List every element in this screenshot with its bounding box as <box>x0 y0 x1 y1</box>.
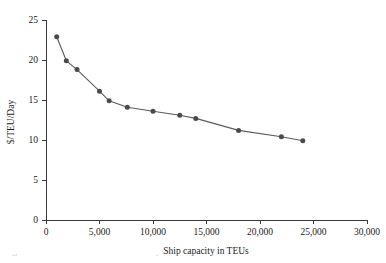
chart-figure: 05,00010,00015,00020,00025,00030,000 051… <box>0 0 386 263</box>
x-tick-label: 5,000 <box>89 227 111 237</box>
x-tick-label: 25,000 <box>300 227 326 237</box>
x-tick-label: 15,000 <box>193 227 219 237</box>
y-tick-label: 0 <box>33 215 38 225</box>
axis-spine <box>46 20 367 220</box>
x-tick-label: 10,000 <box>140 227 166 237</box>
data-point <box>107 98 112 103</box>
data-point <box>64 58 69 63</box>
data-point <box>151 109 156 114</box>
data-point <box>97 89 102 94</box>
y-axis-tick-labels: 0510152025 <box>29 15 39 225</box>
y-tick-label: 15 <box>29 95 39 105</box>
y-axis-title: $/TEU/Day <box>6 100 16 145</box>
data-point <box>236 128 241 133</box>
data-point <box>193 116 198 121</box>
y-tick-label: 5 <box>33 175 38 185</box>
series-polyline <box>57 37 303 141</box>
x-tick-label: 0 <box>44 227 49 237</box>
data-point <box>75 67 80 72</box>
data-point <box>177 113 182 118</box>
axes <box>46 20 367 220</box>
data-point <box>125 105 130 110</box>
x-tick-label: 20,000 <box>247 227 273 237</box>
figure-caption: Figure Economies of scale: slot cost by … <box>4 254 216 256</box>
x-axis-tick-labels: 05,00010,00015,00020,00025,00030,000 <box>44 227 381 237</box>
y-tick-label: 10 <box>29 135 39 145</box>
figure-caption-strip: Figure Economies of scale: slot cost by … <box>0 254 386 263</box>
y-tick-label: 25 <box>29 15 39 25</box>
line-chart: 05,00010,00015,00020,00025,00030,000 051… <box>0 0 386 263</box>
data-point <box>54 34 59 39</box>
data-point <box>279 134 284 139</box>
data-series <box>54 34 305 143</box>
x-tick-label: 30,000 <box>354 227 380 237</box>
y-tick-label: 20 <box>29 55 39 65</box>
tick-marks <box>42 20 367 224</box>
data-point <box>300 138 305 143</box>
